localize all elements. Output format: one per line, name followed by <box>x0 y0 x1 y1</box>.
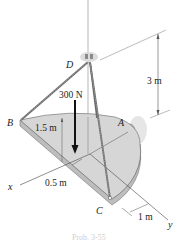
figure-caption: Prob. 3-55 <box>72 233 106 242</box>
diagram-canvas: 3 m 1.5 m 0.5 m 1 m 300 N D B A C x y Pr… <box>0 0 181 244</box>
point-label-D: D <box>65 59 74 70</box>
ring-support-D <box>80 52 98 62</box>
dimension-1-5m-label: 1.5 m <box>35 123 57 133</box>
attachment-point-C <box>108 196 111 199</box>
dimension-extension-top <box>100 30 166 60</box>
axis-label-x: x <box>7 181 13 192</box>
force-label: 300 N <box>59 90 83 100</box>
point-label-C: C <box>96 205 103 216</box>
point-label-A: A <box>117 117 125 128</box>
dimension-1m-label: 1 m <box>138 212 153 222</box>
ring-bracket-icon <box>90 54 93 59</box>
dimension-0-5m-label: 0.5 m <box>45 178 67 188</box>
point-label-B: B <box>7 117 13 128</box>
dimension-line-1m <box>130 204 148 212</box>
arrowhead-icon <box>157 34 160 39</box>
dimension-extension-bottom <box>150 110 170 118</box>
axis-label-y: y <box>167 219 173 230</box>
dimension-3m-label: 3 m <box>147 76 162 86</box>
ring-bracket-icon <box>85 54 88 59</box>
